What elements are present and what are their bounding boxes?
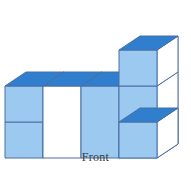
isometric-cube-diagram [0, 0, 191, 172]
cube-figure: Front [0, 0, 191, 172]
face-front [119, 50, 157, 86]
face-front [81, 86, 119, 158]
cube-tower-top [119, 36, 178, 86]
front-label: Front [0, 150, 191, 164]
face-front [43, 86, 81, 158]
face-front [5, 86, 43, 122]
